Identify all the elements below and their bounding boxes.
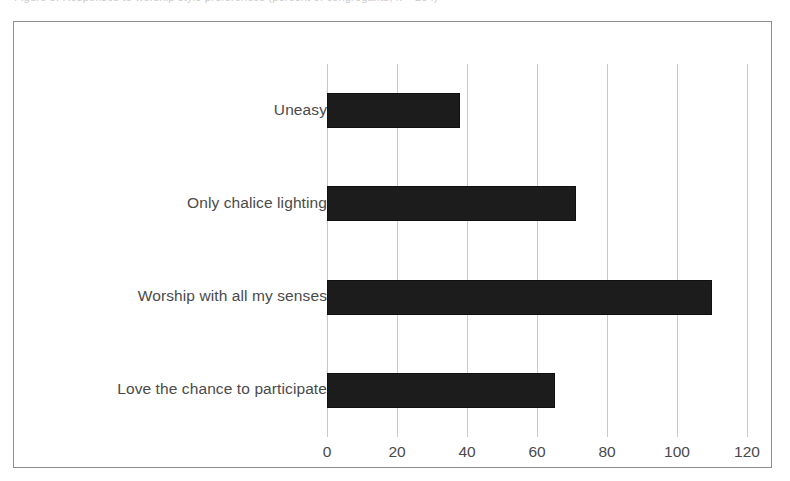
x-axis-tick-labels: 020406080100120 [327, 443, 747, 469]
bar [327, 93, 460, 128]
gridline-80 [607, 64, 608, 437]
gridline-120 [747, 64, 748, 437]
category-axis-labels: UneasyOnly chalice lightingWorship with … [27, 64, 327, 437]
category-label: Only chalice lighting [37, 194, 327, 212]
x-tick-label: 40 [458, 443, 475, 461]
x-tick-label: 120 [734, 443, 760, 461]
clipped-caption-text: Figure 5. Responses to worship style pre… [14, 0, 438, 3]
x-tick-label: 60 [528, 443, 545, 461]
plot-area [327, 64, 747, 437]
bar [327, 373, 555, 408]
category-label: Uneasy [37, 101, 327, 119]
bar [327, 280, 712, 315]
category-label: Worship with all my senses [37, 287, 327, 305]
figure-frame: UneasyOnly chalice lightingWorship with … [13, 21, 772, 468]
x-tick-label: 20 [388, 443, 405, 461]
x-tick-label: 80 [598, 443, 615, 461]
bar [327, 186, 576, 221]
x-tick-label: 100 [664, 443, 690, 461]
gridline-100 [677, 64, 678, 437]
clipped-caption-strip: Figure 5. Responses to worship style pre… [0, 0, 790, 12]
x-tick-label: 0 [323, 443, 332, 461]
category-label: Love the chance to participate [37, 380, 327, 398]
